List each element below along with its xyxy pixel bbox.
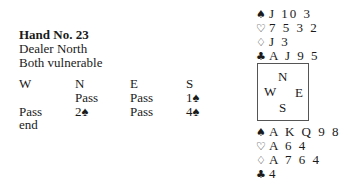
compass-box: N W E S <box>257 63 309 121</box>
auction-call: 2♠ <box>75 104 88 119</box>
dealer-label: Dealer North <box>19 41 87 56</box>
compass-east: E <box>295 85 303 100</box>
auction-header-n: N <box>75 76 84 91</box>
auction-header-e: E <box>130 76 138 91</box>
compass-south: S <box>279 100 286 115</box>
auction-header-s: S <box>186 76 193 91</box>
compass-west: W <box>264 84 276 99</box>
south-clubs: ♣4 <box>256 166 278 182</box>
auction-call: Pass <box>130 104 153 119</box>
auction-header-w: W <box>19 76 31 91</box>
club-icon: ♣ <box>256 49 269 64</box>
auction-call: 1♠ <box>186 90 199 105</box>
hand-title: Hand No. 23 <box>19 27 89 42</box>
auction-call: end <box>19 117 38 132</box>
auction-call: Pass <box>130 90 153 105</box>
vulnerability-label: Both vulnerable <box>19 55 102 70</box>
auction-call: 4♠ <box>186 104 199 119</box>
north-clubs: ♣A J 9 5 <box>256 48 319 64</box>
club-icon: ♣ <box>256 167 269 182</box>
compass-north: N <box>278 69 287 84</box>
auction-call: Pass <box>75 90 98 105</box>
